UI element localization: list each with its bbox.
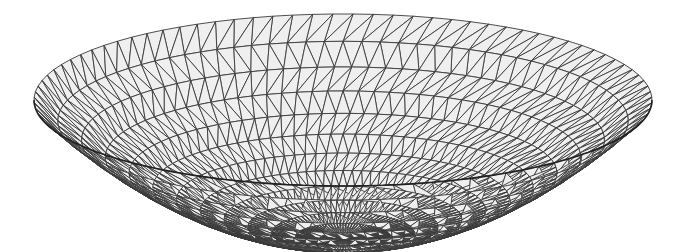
bowl-wireframe-mesh [0,0,685,252]
mesh-triangles [34,14,652,252]
mesh-figure [0,0,685,252]
